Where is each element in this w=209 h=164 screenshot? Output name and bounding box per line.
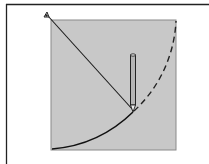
arc-drawing-diagram [0, 0, 209, 164]
pin-icon [44, 12, 49, 17]
pencil-icon [131, 54, 136, 112]
